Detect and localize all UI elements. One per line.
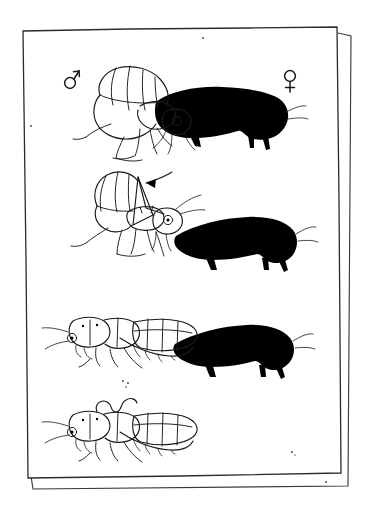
- illustration-canvas: [0, 0, 374, 517]
- figure-root: Insect courtship and mating behaviour se…: [0, 0, 374, 517]
